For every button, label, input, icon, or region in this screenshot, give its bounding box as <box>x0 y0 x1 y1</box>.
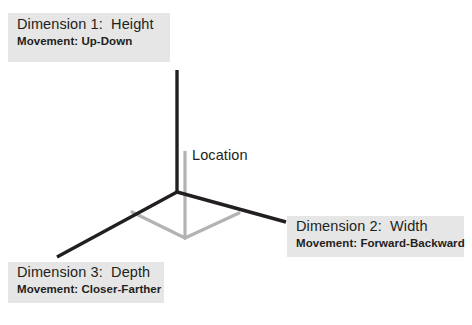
dimension-3-title: Dimension 3: Depth <box>17 265 156 280</box>
dimension-1-height-box: Dimension 1: Height Movement: Up-Down <box>8 13 170 62</box>
dimension-2-title: Dimension 2: Width <box>296 219 456 234</box>
axis-lines <box>57 70 286 257</box>
dimension-2-movement: Movement: Forward-Backward <box>296 237 456 249</box>
projection-right-edge <box>185 213 239 238</box>
dimension-1-title: Dimension 1: Height <box>17 17 162 32</box>
dimension-3-depth-box: Dimension 3: Depth Movement: Closer-Fart… <box>8 262 164 303</box>
dimension-1-movement: Movement: Up-Down <box>17 35 162 47</box>
diagram-canvas: Location Dimension 1: Height Movement: U… <box>0 0 472 325</box>
dimension-2-width-box: Dimension 2: Width Movement: Forward-Bac… <box>287 216 464 257</box>
dimension-3-movement: Movement: Closer-Farther <box>17 283 156 295</box>
projection-left-edge <box>132 212 185 238</box>
location-label: Location <box>192 147 248 163</box>
